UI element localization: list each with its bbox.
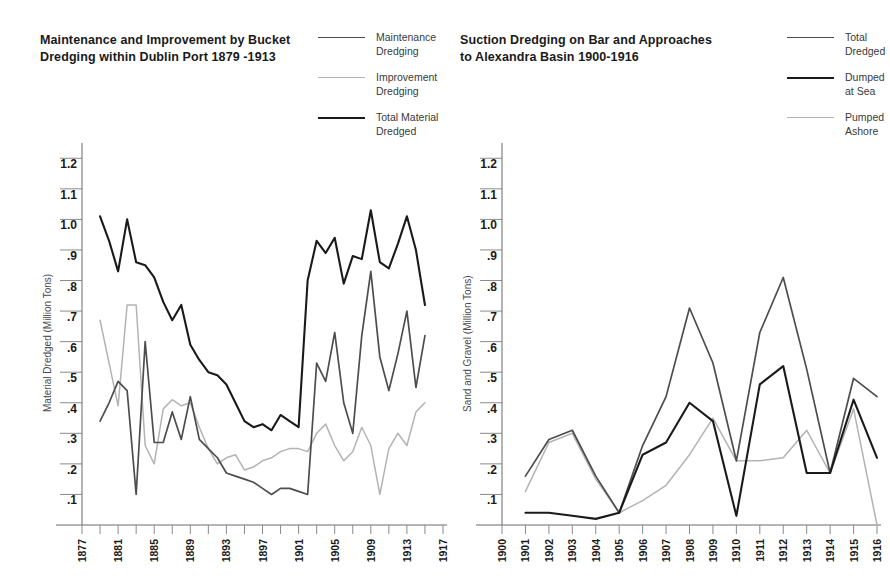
- x-axis-tick-label: 1905: [329, 539, 341, 563]
- legend-item: Total Material Dredged: [318, 110, 438, 138]
- legend-item: Dumped at Sea: [787, 70, 885, 98]
- y-axis-tick: 1.2: [60, 157, 82, 171]
- y-axis-tick-label: 1.0: [60, 218, 77, 232]
- x-axis-tick: 1913: [801, 525, 813, 562]
- x-axis-tick: 1907: [660, 525, 672, 562]
- y-axis-tick-label: .3: [487, 432, 497, 446]
- series-line: [525, 409, 877, 525]
- legend-item: Improvement Dredging: [318, 70, 438, 98]
- x-axis-tick: 1877: [76, 525, 88, 562]
- x-axis-tick: 1901: [519, 525, 531, 562]
- y-axis-tick-label: .9: [487, 249, 497, 263]
- y-axis-tick: .9: [60, 249, 82, 263]
- x-axis-tick-label: 1900: [496, 539, 508, 563]
- y-axis-tick: .2: [480, 463, 502, 477]
- x-axis-tick: 1917: [437, 525, 449, 562]
- y-axis-tick: 1.1: [480, 188, 502, 202]
- y-axis-tick: .6: [60, 341, 82, 355]
- x-axis-tick-label: 1881: [112, 539, 124, 563]
- x-axis-tick: 1910: [730, 525, 742, 562]
- y-axis-tick: 1.0: [60, 218, 82, 232]
- chart-svg: .1.2.3.4.5.6.7.8.91.01.11.21900190119021…: [460, 135, 885, 585]
- x-axis-tick: 1897: [257, 525, 269, 562]
- legend-label: Dumped at Sea: [845, 70, 885, 98]
- legend: Total DredgedDumped at SeaPumped Ashore: [787, 30, 885, 150]
- x-axis-tick: 1881: [112, 525, 124, 562]
- x-axis-tick-label: 1914: [824, 539, 836, 563]
- legend-swatch-icon: [318, 77, 365, 78]
- y-axis-tick: .9: [480, 249, 502, 263]
- x-axis-tick-label: 1912: [777, 539, 789, 563]
- y-axis-title: Sand and Gravel (Million Tons): [462, 275, 473, 412]
- x-axis-tick-label: 1893: [220, 539, 232, 563]
- x-axis-tick-label: 1907: [660, 539, 672, 563]
- y-axis-tick: .4: [60, 402, 82, 416]
- legend-swatch-icon: [787, 77, 834, 79]
- legend-swatch-icon: [787, 117, 834, 118]
- x-axis-tick: 1903: [566, 525, 578, 562]
- y-axis-tick-label: .1: [487, 493, 497, 507]
- legend-label: Pumped Ashore: [845, 110, 884, 138]
- x-axis-tick: 1905: [613, 525, 625, 562]
- page-title: Suction Dredging on Bar and Approaches t…: [460, 32, 720, 66]
- plot-area: .1.2.3.4.5.6.7.8.91.01.11.21900190119021…: [460, 135, 885, 585]
- x-axis-tick: 1904: [590, 525, 602, 562]
- x-axis-tick: 1905: [329, 525, 341, 562]
- x-axis-tick-label: 1909: [365, 539, 377, 563]
- x-axis-tick: 1889: [184, 525, 196, 562]
- y-axis-tick: .8: [480, 280, 502, 294]
- x-axis-tick-label: 1916: [871, 539, 883, 563]
- y-axis-tick: .1: [480, 493, 502, 507]
- x-axis-tick-label: 1917: [437, 539, 449, 563]
- page-title: Maintenance and Improvement by Bucket Dr…: [40, 32, 310, 66]
- y-axis-tick: .7: [60, 310, 82, 324]
- y-axis-tick-label: .5: [67, 371, 77, 385]
- x-axis-tick: 1914: [824, 525, 836, 562]
- x-axis-tick-label: 1915: [848, 539, 860, 563]
- y-axis-tick-label: .4: [67, 402, 77, 416]
- y-axis-tick-label: .2: [487, 463, 497, 477]
- legend-label: Improvement Dredging: [376, 70, 437, 98]
- y-axis-tick-label: .8: [67, 280, 77, 294]
- y-axis-tick-label: .2: [67, 463, 77, 477]
- x-axis-tick-label: 1901: [519, 539, 531, 563]
- x-axis-tick-label: 1901: [293, 539, 305, 563]
- y-axis-tick: .4: [480, 402, 502, 416]
- x-axis-tick: 1885: [148, 525, 160, 562]
- y-axis-tick-label: 1.1: [480, 188, 497, 202]
- plot-area: .1.2.3.4.5.6.7.8.91.01.11.21877188118851…: [40, 135, 445, 585]
- series-line: [525, 277, 877, 512]
- y-axis-tick-label: 1.2: [480, 157, 497, 171]
- legend-item: Total Dredged: [787, 30, 885, 58]
- x-axis-tick-label: 1903: [566, 539, 578, 563]
- x-axis-tick: 1913: [401, 525, 413, 562]
- y-axis-tick-label: .4: [487, 402, 497, 416]
- x-axis-tick-label: 1897: [257, 539, 269, 563]
- legend-item: Maintenance Dredging: [318, 30, 438, 58]
- legend-label: Maintenance Dredging: [376, 30, 436, 58]
- y-axis-tick-label: 1.0: [480, 218, 497, 232]
- x-axis-tick: 1916: [871, 525, 883, 562]
- legend-label: Total Material Dredged: [376, 110, 438, 138]
- y-axis-tick: .3: [480, 432, 502, 446]
- y-axis-tick-label: .6: [487, 341, 497, 355]
- x-axis-tick: 1902: [543, 525, 555, 562]
- x-axis-tick: 1915: [848, 525, 860, 562]
- y-axis-tick: .6: [480, 341, 502, 355]
- x-axis-tick-label: 1909: [707, 539, 719, 563]
- y-axis-tick: .7: [480, 310, 502, 324]
- y-axis-tick: .2: [60, 463, 82, 477]
- x-axis-tick-label: 1905: [613, 539, 625, 563]
- y-axis-tick: .8: [60, 280, 82, 294]
- y-axis-tick-label: 1.2: [60, 157, 77, 171]
- x-axis-tick-label: 1913: [401, 539, 413, 563]
- legend-label: Total Dredged: [845, 30, 885, 58]
- y-axis-tick-label: 1.1: [60, 188, 77, 202]
- x-axis-tick-label: 1902: [543, 539, 555, 563]
- x-axis-tick: 1909: [707, 525, 719, 562]
- x-axis-tick-label: 1908: [684, 539, 696, 563]
- x-axis-tick: 1901: [293, 525, 305, 562]
- legend-swatch-icon: [318, 117, 365, 119]
- chart-panel-suction-dredging: Suction Dredging on Bar and Approaches t…: [450, 0, 890, 588]
- y-axis-tick: 1.0: [480, 218, 502, 232]
